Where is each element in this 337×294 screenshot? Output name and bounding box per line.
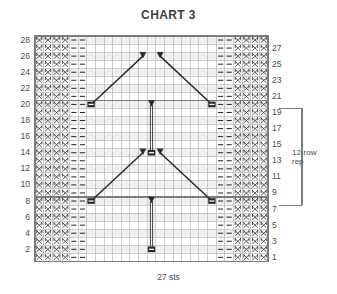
travelling-stitch-line xyxy=(91,153,143,201)
row-number-left-26: 26 xyxy=(8,52,30,61)
seed-stitch-symbol xyxy=(235,77,240,82)
seed-stitch-symbol xyxy=(54,174,59,179)
row-number-right-9: 9 xyxy=(272,188,294,197)
seed-stitch-symbol xyxy=(235,94,240,99)
seed-stitch-symbol xyxy=(54,255,59,260)
seed-stitch-symbol xyxy=(261,77,266,82)
seed-stitch-symbol xyxy=(54,94,59,99)
seed-stitch-symbol xyxy=(252,126,257,131)
row-shade xyxy=(35,133,268,141)
seed-stitch-symbol xyxy=(252,142,257,147)
row-number-left-10: 10 xyxy=(8,180,30,189)
seed-stitch-symbol xyxy=(261,158,266,163)
seed-stitch-symbol xyxy=(244,110,249,115)
row-shade xyxy=(35,84,268,92)
seed-stitch-symbol xyxy=(235,126,240,131)
seed-stitch-symbol xyxy=(45,158,50,163)
row-number-left-28: 28 xyxy=(8,36,30,45)
seed-stitch-symbol xyxy=(63,255,68,260)
row-number-left-8: 8 xyxy=(8,197,30,206)
row-number-right-13: 13 xyxy=(272,156,294,165)
seed-stitch-symbol xyxy=(252,61,257,66)
seed-stitch-symbol xyxy=(261,142,266,147)
seed-stitch-symbol xyxy=(63,94,68,99)
row-number-left-6: 6 xyxy=(8,213,30,222)
row-number-left-14: 14 xyxy=(8,148,30,157)
seed-stitch-symbol xyxy=(63,61,68,66)
knot-symbol xyxy=(208,102,215,108)
travelling-stitch-line xyxy=(160,153,212,201)
knot-symbol xyxy=(87,198,94,204)
seed-stitch-symbol xyxy=(63,222,68,227)
seed-stitch-symbol xyxy=(261,206,266,211)
row-shade xyxy=(35,213,268,221)
row-number-right-19: 19 xyxy=(272,108,294,117)
seed-stitch-symbol xyxy=(261,174,266,179)
seed-stitch-symbol xyxy=(63,45,68,50)
row-number-left-24: 24 xyxy=(8,68,30,77)
seed-stitch-symbol xyxy=(244,77,249,82)
seed-stitch-symbol xyxy=(252,206,257,211)
row-number-left-2: 2 xyxy=(8,245,30,254)
seed-stitch-symbol xyxy=(45,110,50,115)
seed-stitch-symbol xyxy=(244,142,249,147)
seed-stitch-symbol xyxy=(235,206,240,211)
seed-stitch-symbol xyxy=(252,222,257,227)
seed-stitch-symbol xyxy=(37,61,42,66)
seed-stitch-symbol xyxy=(244,94,249,99)
seed-stitch-symbol xyxy=(261,222,266,227)
seed-stitch-symbol xyxy=(37,158,42,163)
row-number-left-18: 18 xyxy=(8,116,30,125)
row-number-right-21: 21 xyxy=(272,92,294,101)
seed-stitch-symbol xyxy=(37,206,42,211)
seed-stitch-symbol xyxy=(244,255,249,260)
row-shade xyxy=(35,165,268,173)
seed-stitch-symbol xyxy=(235,190,240,195)
seed-stitch-symbol xyxy=(37,222,42,227)
seed-stitch-symbol xyxy=(45,61,50,66)
seed-stitch-symbol xyxy=(261,45,266,50)
travelling-stitch-line xyxy=(160,56,212,104)
seed-stitch-symbol xyxy=(244,206,249,211)
row-number-right-3: 3 xyxy=(272,237,294,246)
row-shade xyxy=(35,229,268,237)
seed-stitch-symbol xyxy=(63,206,68,211)
row-number-left-22: 22 xyxy=(8,84,30,93)
seed-stitch-symbol xyxy=(45,222,50,227)
seed-stitch-symbol xyxy=(37,238,42,243)
seed-stitch-symbol xyxy=(261,255,266,260)
seed-stitch-symbol xyxy=(261,238,266,243)
knot-symbol xyxy=(148,150,155,156)
row-number-left-20: 20 xyxy=(8,100,30,109)
row-number-left-4: 4 xyxy=(8,229,30,238)
repeat-label: 12-row rep xyxy=(292,148,336,166)
seed-stitch-symbol xyxy=(252,158,257,163)
seed-stitch-symbol xyxy=(45,206,50,211)
seed-stitch-symbol xyxy=(37,190,42,195)
seed-stitch-symbol xyxy=(252,238,257,243)
row-shade xyxy=(35,181,268,189)
repeat-label-line1: 12-row xyxy=(292,148,316,157)
seed-stitch-symbol xyxy=(244,174,249,179)
seed-stitch-symbol xyxy=(244,222,249,227)
seed-stitch-symbol xyxy=(261,110,266,115)
seed-stitch-symbol xyxy=(235,222,240,227)
seed-stitch-symbol xyxy=(54,77,59,82)
seed-stitch-symbol xyxy=(37,142,42,147)
row-shade xyxy=(35,36,268,44)
seed-stitch-symbol xyxy=(45,77,50,82)
seed-stitch-symbol xyxy=(63,126,68,131)
knot-symbol xyxy=(87,102,94,108)
row-number-right-11: 11 xyxy=(272,172,294,181)
seed-stitch-symbol xyxy=(45,174,50,179)
row-number-right-23: 23 xyxy=(272,76,294,85)
seed-stitch-symbol xyxy=(261,94,266,99)
seed-stitch-symbol xyxy=(252,45,257,50)
row-number-right-17: 17 xyxy=(272,124,294,133)
seed-stitch-symbol xyxy=(54,61,59,66)
seed-stitch-symbol xyxy=(261,190,266,195)
seed-stitch-symbol xyxy=(252,77,257,82)
seed-stitch-symbol xyxy=(54,126,59,131)
seed-stitch-symbol xyxy=(63,77,68,82)
row-number-left-12: 12 xyxy=(8,164,30,173)
